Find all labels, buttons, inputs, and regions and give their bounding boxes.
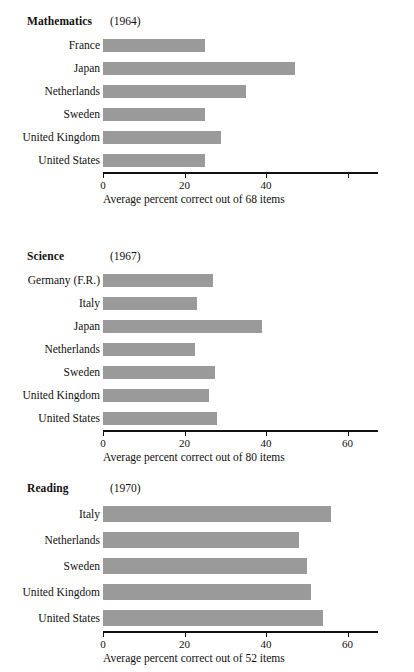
bar: [103, 343, 195, 356]
bar-row: United Kingdom: [0, 579, 414, 605]
bar: [103, 320, 262, 333]
category-label: Italy: [0, 292, 100, 315]
panel-year: (1967): [110, 250, 141, 262]
bar: [103, 39, 205, 52]
bar: [103, 297, 197, 310]
category-label: Sweden: [0, 553, 100, 579]
category-label: Sweden: [0, 361, 100, 384]
category-label: United Kingdom: [0, 384, 100, 407]
bar-rows: France Japan Netherlands: [0, 34, 414, 172]
panel-year: (1970): [110, 482, 141, 494]
bar-row: Japan: [0, 315, 414, 338]
axis-tick: [103, 172, 104, 178]
bar: [103, 389, 209, 402]
bar-row: United Kingdom: [0, 384, 414, 407]
axis-caption: Average percent correct out of 52 items: [103, 652, 285, 664]
axis-tick-label: 0: [100, 179, 106, 191]
panel-header: Reading (1970): [0, 479, 414, 501]
axis-tick-label: 40: [261, 437, 272, 449]
bar: [103, 412, 217, 425]
category-label: Netherlands: [0, 338, 100, 361]
chart-panel-reading: Reading (1970) Italy Netherlands: [0, 479, 414, 661]
axis-tick: [266, 631, 267, 637]
bar: [103, 62, 295, 75]
category-label: Germany (F.R.): [0, 269, 100, 292]
axis-tick-label: 0: [100, 638, 106, 650]
bar: [103, 584, 311, 600]
x-axis: Average percent correct out of 68 items …: [0, 172, 414, 202]
plot-area: Germany (F.R.) Italy Japan: [0, 269, 414, 460]
chart-panel-mathematics: Mathematics (1964) France Japan: [0, 12, 414, 202]
category-label: United Kingdom: [0, 579, 100, 605]
bar-row: Netherlands: [0, 80, 414, 103]
bar: [103, 506, 331, 522]
bar: [103, 274, 213, 287]
axis-tick: [266, 172, 267, 178]
axis-line: [103, 172, 378, 174]
bar-row: Sweden: [0, 103, 414, 126]
axis-tick-label: 60: [342, 638, 353, 650]
category-label: United States: [0, 407, 100, 430]
panel-header: Science (1967): [0, 247, 414, 269]
bar-row: Netherlands: [0, 338, 414, 361]
axis-tick-label: 40: [261, 638, 272, 650]
bar: [103, 610, 323, 626]
category-label: United States: [0, 149, 100, 172]
panel-header: Mathematics (1964): [0, 12, 414, 34]
bar-row: Italy: [0, 501, 414, 527]
bar: [103, 154, 205, 167]
bar-row: Italy: [0, 292, 414, 315]
axis-line: [103, 631, 378, 633]
bar-rows: Germany (F.R.) Italy Japan: [0, 269, 414, 430]
panel-title: Mathematics: [27, 15, 92, 27]
bar: [103, 532, 299, 548]
bar: [103, 366, 215, 379]
bar-row: United States: [0, 407, 414, 430]
category-label: Netherlands: [0, 527, 100, 553]
category-label: Japan: [0, 57, 100, 80]
axis-tick: [266, 430, 267, 436]
axis-tick: [185, 631, 186, 637]
x-axis: Average percent correct out of 52 items …: [0, 631, 414, 661]
bar-row: Germany (F.R.): [0, 269, 414, 292]
category-label: Netherlands: [0, 80, 100, 103]
axis-tick-label: 60: [342, 437, 353, 449]
axis-tick: [103, 430, 104, 436]
category-label: France: [0, 34, 100, 57]
figure-page: Mathematics (1964) France Japan: [0, 0, 414, 672]
bar-row: United Kingdom: [0, 126, 414, 149]
axis-line: [103, 430, 378, 432]
bar-row: Netherlands: [0, 527, 414, 553]
axis-tick-label: 20: [179, 638, 190, 650]
category-label: Italy: [0, 501, 100, 527]
bar-row: Sweden: [0, 553, 414, 579]
axis-tick: [348, 430, 349, 436]
axis-caption: Average percent correct out of 80 items: [103, 451, 285, 463]
axis-tick: [103, 631, 104, 637]
bar: [103, 558, 307, 574]
axis-tick-label: 0: [100, 437, 106, 449]
axis-caption: Average percent correct out of 68 items: [103, 193, 285, 205]
bar-row: Japan: [0, 57, 414, 80]
bar-row: United States: [0, 149, 414, 172]
axis-tick-label: 20: [179, 179, 190, 191]
chart-panel-science: Science (1967) Germany (F.R.) Italy: [0, 247, 414, 460]
axis-tick: [185, 172, 186, 178]
bar: [103, 108, 205, 121]
axis-tick-label: 20: [179, 437, 190, 449]
bar-row: Sweden: [0, 361, 414, 384]
bar-rows: Italy Netherlands Sweden: [0, 501, 414, 631]
bar-row: United States: [0, 605, 414, 631]
category-label: Sweden: [0, 103, 100, 126]
plot-area: France Japan Netherlands: [0, 34, 414, 202]
plot-area: Italy Netherlands Sweden: [0, 501, 414, 661]
panel-year: (1964): [110, 15, 141, 27]
axis-tick: [348, 172, 349, 178]
bar-row: France: [0, 34, 414, 57]
axis-tick-label: 40: [261, 179, 272, 191]
axis-tick: [185, 430, 186, 436]
panel-title: Science: [27, 250, 64, 262]
bar: [103, 131, 221, 144]
axis-tick: [348, 631, 349, 637]
bar: [103, 85, 246, 98]
